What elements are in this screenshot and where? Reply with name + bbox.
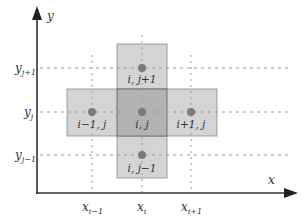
svg-text:yj+1: yj+1 [14, 61, 36, 77]
node-label-center: i, j [135, 118, 149, 130]
stencil-diagram: y x yj+1 yj yj−1 xi−1 xi xi+1 i, j+1 i−1… [0, 0, 308, 221]
node-east-icon [187, 108, 195, 116]
node-label-north: i, j+1 [128, 73, 157, 85]
node-label-east: i+1, j [177, 118, 207, 130]
x-tick-labels: xi−1 xi xi+1 [82, 200, 202, 216]
node-label-west: i−1, j [78, 118, 108, 130]
svg-text:xi−1: xi−1 [82, 200, 103, 216]
x-axis-label: x [268, 173, 275, 187]
node-west-icon [88, 108, 96, 116]
y-axis-label: y [46, 9, 54, 23]
node-label-south: i, j−1 [128, 162, 157, 174]
y-tick-labels: yj+1 yj yj−1 [14, 61, 36, 164]
svg-text:yj−1: yj−1 [14, 148, 36, 164]
node-south-icon [138, 151, 146, 159]
svg-text:yj: yj [23, 105, 34, 121]
svg-text:xi+1: xi+1 [181, 200, 202, 216]
node-center-icon [138, 108, 146, 116]
x-axis-arrow-icon [284, 188, 298, 198]
y-axis-arrow-icon [32, 6, 42, 20]
node-north-icon [138, 64, 146, 72]
svg-text:xi: xi [137, 200, 147, 216]
